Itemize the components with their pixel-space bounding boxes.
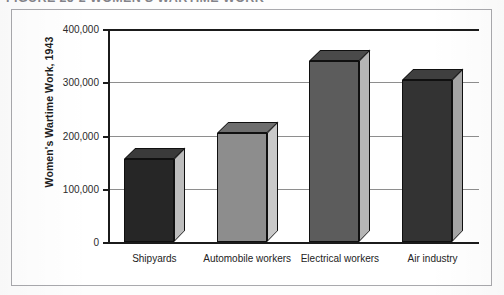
- bar-front-face: [124, 159, 174, 242]
- chart-frame: Women's Wartime Work, 1943 0100,000200,0…: [11, 9, 492, 286]
- y-axis-tick-label: 0: [93, 237, 99, 248]
- scanned-page: FIGURE 25-2 WOMEN'S WARTIME WORK Women's…: [0, 0, 504, 295]
- bar-side-face: [359, 50, 370, 242]
- bar-top-face: [217, 122, 278, 133]
- bar-side-face: [452, 68, 463, 242]
- bar-air-industry[interactable]: [402, 69, 452, 242]
- tick-mark: [103, 29, 110, 31]
- x-axis-line: [108, 242, 479, 244]
- plot-area: 0100,000200,000300,000400,000: [108, 29, 479, 244]
- bar-front-face: [217, 133, 267, 242]
- bar-side-face: [174, 148, 185, 242]
- bar-shipyards[interactable]: [124, 148, 174, 242]
- bar-front-face: [309, 61, 359, 242]
- bar-electrical-workers[interactable]: [309, 50, 359, 242]
- y-axis-tick-label: 100,000: [63, 183, 99, 194]
- tick-mark: [103, 189, 110, 191]
- x-axis-category-label: Air industry: [378, 253, 488, 266]
- tick-mark: [103, 82, 110, 84]
- bar-automobile-workers[interactable]: [217, 122, 267, 242]
- bar-side-face: [267, 121, 278, 242]
- tick-mark: [103, 136, 110, 138]
- y-axis-tick-label: 300,000: [63, 77, 99, 88]
- gridline: [110, 29, 479, 31]
- y-axis-tick-label: 200,000: [63, 130, 99, 141]
- tick-mark: [103, 242, 110, 244]
- figure-caption-cropped: FIGURE 25-2 WOMEN'S WARTIME WORK: [0, 0, 504, 7]
- bar-front-face: [402, 80, 452, 242]
- y-axis-title: Women's Wartime Work, 1943: [43, 32, 55, 192]
- y-axis-tick-label: 400,000: [63, 24, 99, 35]
- figure-caption-text: FIGURE 25-2 WOMEN'S WARTIME WORK: [6, 0, 264, 5]
